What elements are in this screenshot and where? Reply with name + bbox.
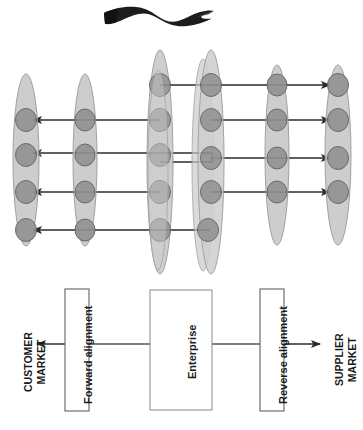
enterprise-box[interactable]	[150, 290, 212, 410]
customer-market-line2: MARKET	[35, 332, 48, 392]
node-2-4	[75, 219, 95, 241]
node-5-3	[267, 147, 287, 169]
diagram-canvas	[0, 0, 363, 430]
node-1-3	[16, 181, 37, 204]
node-6-3	[328, 147, 349, 170]
node-2-3	[75, 181, 95, 203]
supplier-market-line2: MARKET	[346, 333, 359, 386]
node-4-2	[201, 109, 222, 132]
node-2-1	[75, 109, 95, 131]
reverse-alignment-label: Reverse alignment	[277, 306, 289, 404]
node-4-5	[198, 219, 219, 242]
node-4-3	[201, 147, 222, 170]
node-4-4	[201, 181, 222, 204]
customer-market-label: CUSTOMER MARKET	[22, 332, 47, 392]
customer-market-line1: CUSTOMER	[22, 332, 35, 392]
supplier-market-label: SUPPLIER MARKET	[333, 333, 358, 386]
enterprise-label: Enterprise	[186, 325, 198, 379]
node-6-1	[328, 74, 349, 97]
node-6-4	[328, 181, 349, 204]
node-5-4	[267, 181, 287, 203]
node-4-1	[201, 74, 222, 97]
lens-group-6	[325, 65, 351, 245]
node-6-2	[328, 109, 349, 132]
node-5-2	[267, 109, 287, 131]
forward-alignment-label: Forward alignment	[82, 306, 94, 404]
lens-group-5	[265, 65, 289, 245]
node-5-1	[267, 74, 287, 96]
node-2-2	[75, 144, 95, 166]
lens-group-3	[147, 50, 173, 274]
lens-group-4	[192, 50, 224, 274]
lens-group-2	[73, 74, 97, 246]
node-1-2	[16, 144, 37, 167]
supplier-market-line1: SUPPLIER	[333, 333, 346, 386]
figure-root: CUSTOMER MARKET Forward alignment Enterp…	[0, 0, 363, 430]
lens-3-overlay	[148, 70, 168, 270]
swoosh-icon	[104, 7, 214, 26]
lens-group-1	[13, 74, 39, 246]
node-1-1	[16, 109, 37, 132]
node-1-4	[16, 219, 37, 242]
